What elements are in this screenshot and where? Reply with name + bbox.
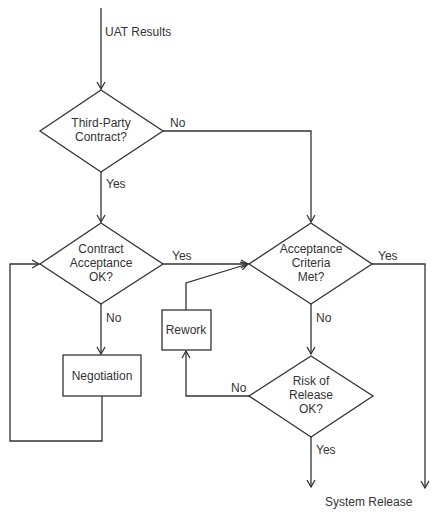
risk-of-release-decision: Risk of Release OK? <box>289 374 333 416</box>
contract-yes-label: Yes <box>172 249 192 263</box>
decision-line: OK? <box>289 402 333 416</box>
risk-no-label: No <box>231 381 246 395</box>
negotiation-loop-edge <box>10 264 102 441</box>
acceptance-criteria-decision: Acceptance Criteria Met? <box>280 242 343 284</box>
third-party-no-edge <box>163 131 311 222</box>
decision-line: Contract <box>70 242 133 256</box>
decision-line: Acceptance <box>280 242 343 256</box>
decision-line: Risk of <box>289 374 333 388</box>
third-party-no-label: No <box>170 116 185 130</box>
contract-acceptance-decision: Contract Acceptance OK? <box>70 242 133 284</box>
decision-line: OK? <box>70 270 133 284</box>
third-party-yes-label: Yes <box>106 177 126 191</box>
input-label: UAT Results <box>105 25 171 39</box>
decision-line: Contract? <box>71 130 130 144</box>
risk-yes-label: Yes <box>316 443 336 457</box>
rework-edge <box>186 264 248 310</box>
decision-line: Met? <box>280 270 343 284</box>
rework-box: Rework <box>166 323 207 337</box>
negotiation-box: Negotiation <box>72 369 133 383</box>
output-label: System Release <box>325 495 412 509</box>
contract-no-label: No <box>106 311 121 325</box>
decision-line: Acceptance <box>70 256 133 270</box>
decision-line: Release <box>289 388 333 402</box>
criteria-yes-edge <box>372 264 425 488</box>
decision-line: Third-Party <box>71 116 130 130</box>
decision-line: Criteria <box>280 256 343 270</box>
criteria-no-label: No <box>316 311 331 325</box>
criteria-yes-label: Yes <box>378 249 398 263</box>
third-party-decision: Third-Party Contract? <box>71 116 130 144</box>
flowchart-canvas <box>0 0 436 516</box>
